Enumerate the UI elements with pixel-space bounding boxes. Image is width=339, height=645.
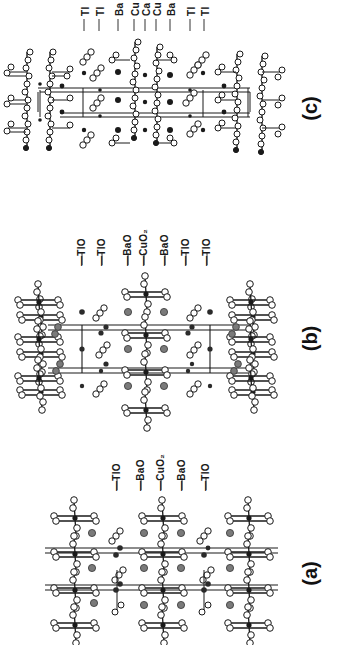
panel-c-structure (4, 19, 285, 155)
layer-label-b-1: —TlO (76, 238, 87, 266)
layer-label-a-5: —TlO (200, 463, 211, 491)
layer-label-b-6: —TlO (180, 238, 191, 266)
panel-letter-b: (b) (299, 326, 322, 352)
layer-label-c-1: Tl (80, 7, 91, 17)
layer-label-b-2: —TlO (96, 238, 107, 266)
crystal-structure-figure (0, 0, 339, 645)
layer-label-c-4: Cu (130, 2, 141, 16)
layer-label-c-3: Ba (114, 3, 125, 16)
panel-letter-a: (a) (299, 561, 322, 585)
layer-label-c-9: Tl (200, 7, 211, 17)
layer-label-c-8: Tl (186, 7, 197, 17)
layer-label-b-3: —BaO (122, 234, 133, 266)
panel-a-structure (45, 478, 278, 645)
layer-label-c-7: Ba (166, 3, 177, 16)
layer-label-b-4: —CuO₂ (138, 229, 149, 266)
layer-label-c-6: Cu (152, 2, 163, 16)
layer-label-b-5: —BaO (159, 234, 170, 266)
layer-label-a-1: —TlO (111, 463, 122, 491)
layer-label-b-7: —TlO (201, 238, 212, 266)
layer-label-a-4: —BaO (176, 459, 187, 491)
layer-label-a-2: —BaO (135, 459, 146, 491)
panel-b-structure (15, 253, 278, 431)
panel-letter-c: (c) (299, 96, 322, 120)
layer-label-a-3: —CuO₂ (155, 454, 166, 491)
layer-label-c-2: Tl (95, 7, 106, 17)
layer-label-c-5: Ca (141, 3, 152, 16)
